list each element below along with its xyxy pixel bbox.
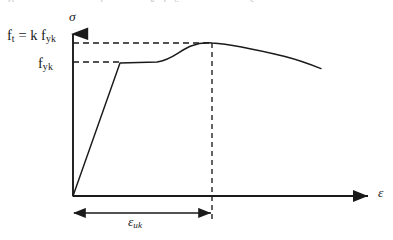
epsilon-axis-label: ε [378,186,383,200]
yield-strength-label: fyk [38,56,53,72]
stress-strain-curve [73,43,321,196]
figure-canvas: σ fₑ k fₑₖ ε ft = k [0,0,393,240]
ultimate-strain-label: εuk [128,215,142,230]
ultimate-strength-equation: = k f [15,27,46,43]
ultimate-strength-label: ft = k fyk [7,28,56,44]
sigma-axis-label: σ [69,10,76,24]
stress-strain-plot [0,0,393,240]
ultimate-strength-equation-subscript: yk [46,33,56,44]
ultimate-strain-subscript: uk [133,220,142,230]
yield-strength-subscript: yk [43,61,53,72]
